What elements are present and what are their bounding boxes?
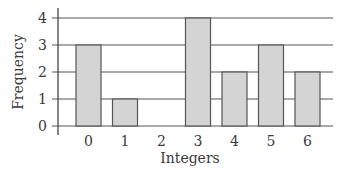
y-axis-label: Frequency bbox=[10, 34, 26, 110]
y-tick-label: 4 bbox=[38, 10, 47, 26]
bar-6 bbox=[295, 72, 320, 126]
x-tick-label: 2 bbox=[157, 133, 166, 149]
x-tick-label: 5 bbox=[267, 133, 276, 149]
y-tick-labels: 01234 bbox=[38, 10, 47, 134]
x-tick-label: 4 bbox=[230, 133, 239, 149]
y-tick-label: 3 bbox=[38, 37, 47, 53]
y-tick-label: 1 bbox=[38, 91, 47, 107]
x-tick-label: 6 bbox=[303, 133, 312, 149]
y-tick-label: 2 bbox=[38, 64, 47, 80]
bar-3 bbox=[186, 18, 211, 126]
x-axis-label: Integers bbox=[160, 150, 220, 166]
frequency-bar-chart: 01234 0123456 Integers Frequency bbox=[0, 0, 343, 179]
x-tick-label: 1 bbox=[121, 133, 130, 149]
y-tick-label: 0 bbox=[38, 118, 47, 134]
bar-1 bbox=[113, 99, 138, 126]
bar-0 bbox=[76, 45, 101, 126]
x-tick-label: 3 bbox=[194, 133, 203, 149]
bar-4 bbox=[222, 72, 247, 126]
x-tick-label: 0 bbox=[84, 133, 93, 149]
x-tick-labels: 0123456 bbox=[84, 133, 312, 149]
bar-5 bbox=[259, 45, 284, 126]
